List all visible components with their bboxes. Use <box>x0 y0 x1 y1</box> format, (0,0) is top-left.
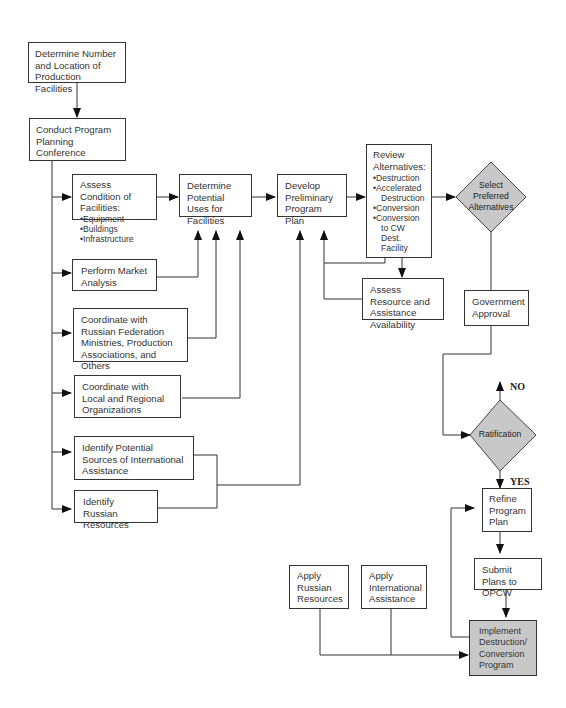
ratification-label: Ratification <box>470 429 530 440</box>
node-apply-russian: Apply Russian Resources <box>289 565 349 609</box>
node-submit-plans: Submit Plans to OPCW <box>474 558 542 590</box>
bullet-list: Equipment Buildings Infrastructure <box>80 214 149 244</box>
node-develop-plan: Develop Preliminary Program Plan <box>277 174 347 217</box>
node-refine-plan: Refine Program Plan <box>482 488 532 532</box>
node-label: Coordinate with Local and Regional Organ… <box>82 381 164 415</box>
edge-label-yes: YES <box>510 476 529 487</box>
node-label: Government Approval <box>472 296 525 319</box>
bullet-item: Buildings <box>80 224 149 234</box>
node-government-approval: Government Approval <box>464 290 529 326</box>
node-conduct-conference: Conduct Program Planning Conference <box>29 118 126 161</box>
select-preferred-label: Select Preferred Alternatives <box>462 180 520 213</box>
bullet-item: Conversionto CW Dest.Facility <box>373 213 425 253</box>
bullet-item: Conversion <box>373 203 425 213</box>
node-label: Conduct Program Planning Conference <box>36 124 111 158</box>
node-review-alternatives: Review Alternatives: Destruction Acceler… <box>366 144 432 258</box>
node-apply-international: Apply International Assistance <box>361 565 427 609</box>
node-determine-number: Determine Number and Location of Product… <box>28 42 126 83</box>
node-label: Apply Russian Resources <box>297 570 343 604</box>
node-label: Submit Plans to OPCW <box>482 564 517 598</box>
node-implement-program: Implement Destruction/ Conversion Progra… <box>469 620 537 676</box>
node-label: Identify Russian Resources <box>83 496 129 530</box>
node-label: Implement Destruction/ Conversion Progra… <box>479 626 527 670</box>
node-coordinate-local: Coordinate with Local and Regional Organ… <box>74 375 181 418</box>
bullet-list: Destruction AcceleratedDestruction Conve… <box>373 173 425 253</box>
bullet-item: AcceleratedDestruction <box>373 183 425 203</box>
bullet-item: Infrastructure <box>80 234 149 244</box>
node-identify-russian: Identify Russian Resources <box>74 490 158 523</box>
node-perform-market: Perform Market Analysis <box>72 259 157 291</box>
node-determine-uses: Determine Potential Uses for Facilities <box>179 174 252 217</box>
bullet-item: Destruction <box>373 173 425 183</box>
node-label: Identify Potential Sources of Internatio… <box>82 442 183 476</box>
node-label: Refine Program Plan <box>489 493 526 527</box>
node-coordinate-russian: Coordinate with Russian Federation Minis… <box>73 308 188 362</box>
bullet-item: Equipment <box>80 214 149 224</box>
edge-label-no: NO <box>510 381 525 392</box>
flowchart-canvas: Determine Number and Location of Product… <box>0 0 566 708</box>
node-title: Review Alternatives: <box>373 149 425 172</box>
node-assess-condition: Assess Condition of Facilities: Equipmen… <box>72 174 157 220</box>
node-title: Assess Condition of Facilities: <box>80 179 149 214</box>
node-label: Apply International Assistance <box>369 570 422 604</box>
node-identify-international: Identify Potential Sources of Internatio… <box>74 436 194 480</box>
node-label: Perform Market Analysis <box>81 265 147 288</box>
node-assess-resource: Assess Resource and Assistance Availabil… <box>362 278 444 320</box>
